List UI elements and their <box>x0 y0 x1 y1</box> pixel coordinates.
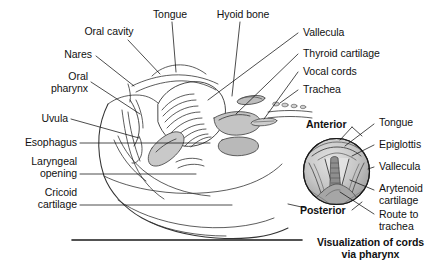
soft-palate-uvula <box>130 100 143 163</box>
head-neck-outline <box>99 95 288 239</box>
label-cricoid-cartilage-line1: Cricoid <box>4 187 77 199</box>
palate-and-oral-cavity <box>128 65 218 102</box>
anterior-pointer <box>352 127 362 136</box>
label-vallecula: Vallecula <box>303 27 344 39</box>
label-esophagus: Esophagus <box>4 137 77 149</box>
label-laryngeal-opening-line1: Laryngeal <box>4 156 77 168</box>
label-posterior: Posterior <box>300 205 346 217</box>
laryngeal-opening-structure <box>176 158 204 168</box>
label-inset-vallecula: Vallecula <box>379 161 420 173</box>
cricoid-cartilage-structure <box>218 137 258 156</box>
inset-laryngoscopic-view <box>303 139 370 205</box>
label-cricoid-cartilage-line2: cartilage <box>4 199 77 211</box>
label-uvula: Uvula <box>4 113 68 125</box>
label-inset-route-line2: trachea <box>379 221 414 233</box>
label-laryngeal-opening-line2: opening <box>4 168 77 180</box>
figure-caption-line1: Visualization of cords <box>306 236 435 248</box>
label-nares: Nares <box>20 49 92 61</box>
label-vocal-cords: Vocal cords <box>303 66 357 78</box>
label-inset-arytenoid-line2: cartilage <box>379 195 418 207</box>
figure-root: Oral cavity Tongue Hyoid bone Nares Oral… <box>0 0 435 271</box>
label-inset-arytenoid-line1: Arytenoid <box>379 183 423 195</box>
label-inset-tongue: Tongue <box>379 117 413 129</box>
label-trachea: Trachea <box>303 84 341 96</box>
label-anterior: Anterior <box>306 119 346 131</box>
label-oral-pharynx-line1: Oral <box>14 71 88 83</box>
label-oral-pharynx-line2: pharynx <box>14 83 88 95</box>
label-hyoid-bone: Hyoid bone <box>212 9 274 21</box>
leader-lines-top <box>128 22 240 96</box>
label-oral-cavity: Oral cavity <box>78 26 140 38</box>
label-inset-epiglottis: Epiglottis <box>379 139 421 151</box>
label-tongue: Tongue <box>142 9 198 21</box>
label-thyroid-cartilage: Thyroid cartilage <box>303 48 380 60</box>
label-inset-route-line1: Route to <box>379 209 418 221</box>
figure-caption-line2: via pharynx <box>306 248 435 260</box>
